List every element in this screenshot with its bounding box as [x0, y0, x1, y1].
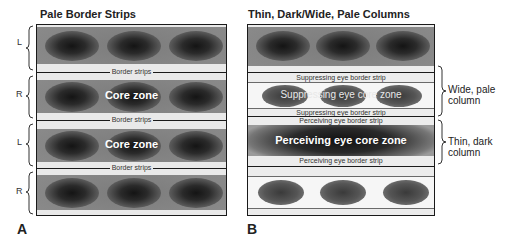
ocular-blob	[258, 180, 304, 205]
thin-dark-line1: Thin, dark	[448, 136, 492, 147]
ocular-blob	[383, 180, 429, 205]
core-zone-label: Core zone	[37, 89, 226, 101]
panel-a-letter: A	[17, 221, 27, 237]
panel-a-title: Pale Border Strips	[40, 8, 136, 20]
row-label-l2: L	[17, 137, 22, 147]
thin-dark-line2: column	[448, 147, 492, 158]
panel-b-letter: B	[247, 221, 257, 237]
wide-pale-line2: column	[448, 95, 495, 106]
core-zone-label: Core zone	[37, 138, 226, 150]
suppressing-core-zone-label: Suppressing eye core zone	[248, 89, 434, 100]
ocular-blob	[45, 31, 99, 61]
row-label-l1: L	[17, 37, 22, 47]
ocular-blob	[45, 178, 99, 208]
ocular-blob	[107, 178, 161, 208]
perceiving-border-strip-label: Perceiving eye border strip	[248, 116, 434, 125]
ocular-blob	[316, 31, 370, 61]
border-strip-label: Border strips	[37, 67, 226, 76]
ocular-blob	[320, 180, 366, 205]
ocular-blob	[107, 31, 161, 61]
left-braces-icon	[25, 24, 35, 216]
row-divider	[248, 166, 434, 167]
wide-pale-column-label: Wide, pale column	[448, 84, 495, 106]
border-strip-label: Border strips	[37, 163, 226, 172]
ocular-blob	[169, 178, 223, 208]
perceiving-border-strip-label: Perceiving eye border strip	[248, 156, 434, 165]
ocular-blob	[256, 31, 310, 61]
right-braces-icon	[437, 64, 449, 178]
ocular-blob	[169, 31, 223, 61]
suppressing-border-strip-label: Suppressing eye border strip	[248, 73, 434, 82]
panel-a-diagram: Border strips Core zone Border strips Co…	[36, 24, 227, 216]
panel-b-diagram: Suppressing eye border strip Suppressing…	[247, 24, 435, 216]
ocular-blob	[376, 31, 430, 61]
wide-pale-line1: Wide, pale	[448, 84, 495, 95]
panel-b-title: Thin, Dark/Wide, Pale Columns	[248, 8, 410, 20]
strip-divider	[248, 208, 434, 209]
perceiving-core-zone-label: Perceiving eye core zone	[248, 134, 434, 146]
row-label-r1: R	[16, 89, 23, 99]
border-strip-label: Border strips	[37, 115, 226, 124]
row-label-r2: R	[16, 186, 23, 196]
thin-dark-column-label: Thin, dark column	[448, 136, 492, 158]
